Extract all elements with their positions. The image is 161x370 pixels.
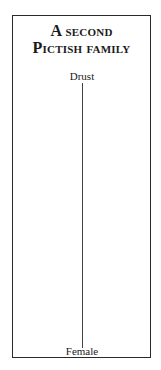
descent-line — [82, 83, 83, 348]
title-line-1: A second — [12, 22, 151, 39]
node-root: Drust — [52, 70, 112, 82]
title-line-2: Pictish family — [12, 39, 151, 56]
node-child: Female — [52, 345, 112, 357]
diagram-title: A second Pictish family — [12, 22, 151, 56]
